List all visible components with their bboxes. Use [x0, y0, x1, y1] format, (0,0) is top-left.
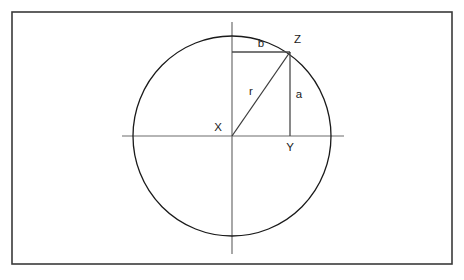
figure-container: X Y Z r a b: [0, 0, 464, 280]
measure-label-a: a: [296, 88, 303, 100]
point-label-x: X: [214, 121, 222, 133]
measure-label-b: b: [258, 37, 264, 49]
point-label-z: Z: [294, 33, 301, 45]
point-label-y: Y: [286, 141, 294, 153]
circle-trigonometry-diagram: X Y Z r a b: [0, 0, 464, 280]
measure-label-r: r: [249, 85, 253, 97]
